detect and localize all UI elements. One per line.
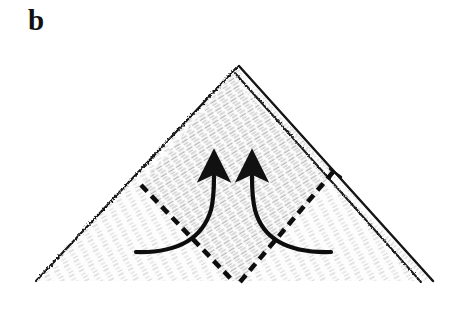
figure-panel: b (0, 0, 465, 313)
paper-triangle (36, 67, 432, 282)
fold-diagram-svg (0, 0, 465, 313)
paper-texture-apex (145, 69, 330, 182)
